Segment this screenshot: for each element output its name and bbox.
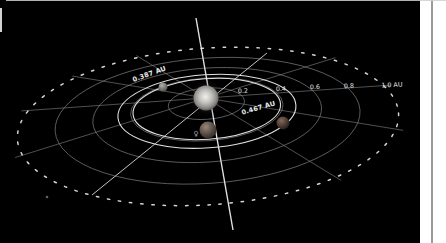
planet-right: [277, 117, 290, 130]
axis-tick-label-3: 0.8: [344, 82, 355, 91]
diagonal-axis-line: [92, 53, 267, 195]
top-border-line: [6, 0, 446, 1]
axis-tick-label-0: 0.2: [238, 87, 249, 96]
venus-symbol: ♀: [193, 130, 198, 138]
axis-tick-label-2: 0.6: [310, 83, 321, 92]
background-star-dot: [46, 196, 49, 199]
orbit-distance-label-1: 0.467 AU: [241, 99, 277, 116]
divider-line: [431, 0, 433, 243]
planet-upper-left: [159, 83, 168, 92]
page-gutter: [420, 0, 446, 243]
sun: [194, 86, 219, 111]
orbit-view: 0.20.40.60.81.0 AU0.387 AU0.467 AU♀: [0, 0, 446, 243]
vertical-axis-line: [196, 18, 233, 230]
grid-spoke-150-deg: [12, 98, 209, 158]
planet-front: [200, 122, 217, 139]
grid-spoke-180-deg: [21, 98, 206, 111]
axis-tick-label-4: 1.0 AU: [381, 80, 403, 89]
orbit-view-canvas[interactable]: 0.20.40.60.81.0 AU0.387 AU0.467 AU♀: [0, 0, 446, 243]
axis-tick-label-1: 0.4: [276, 85, 287, 94]
left-edge-line: [0, 8, 2, 32]
